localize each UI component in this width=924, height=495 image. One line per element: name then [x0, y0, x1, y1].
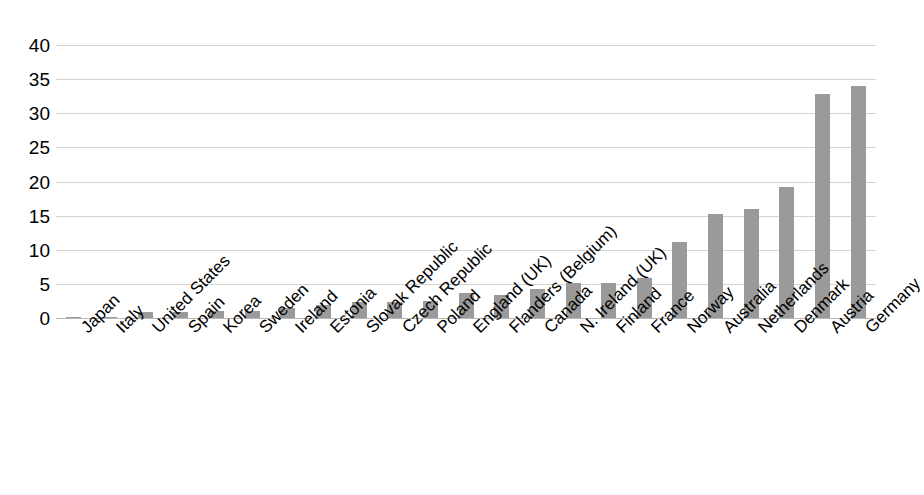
bar[interactable]	[851, 86, 866, 318]
y-tick-label: 10	[4, 240, 50, 259]
bar-slot	[840, 45, 876, 318]
y-tick-label: 15	[4, 206, 50, 225]
bar-slot	[662, 45, 698, 318]
x-axis: JapanItalyUnited StatesSpainKoreaSwedenI…	[56, 318, 876, 493]
y-tick-label: 0	[4, 309, 50, 328]
bar-slot	[306, 45, 342, 318]
bar-slot	[698, 45, 734, 318]
bar-slot	[341, 45, 377, 318]
bar-slot	[127, 45, 163, 318]
y-tick-label: 5	[4, 274, 50, 293]
y-tick-label: 40	[4, 36, 50, 55]
bar-slot	[234, 45, 270, 318]
y-tick-label: 35	[4, 70, 50, 89]
bar-slot	[56, 45, 92, 318]
y-tick-label: 30	[4, 104, 50, 123]
y-tick-label: 20	[4, 172, 50, 191]
bar-slot	[270, 45, 306, 318]
y-tick-label: 25	[4, 138, 50, 157]
y-axis: 0510152025303540	[0, 0, 50, 495]
bar-slot	[92, 45, 128, 318]
